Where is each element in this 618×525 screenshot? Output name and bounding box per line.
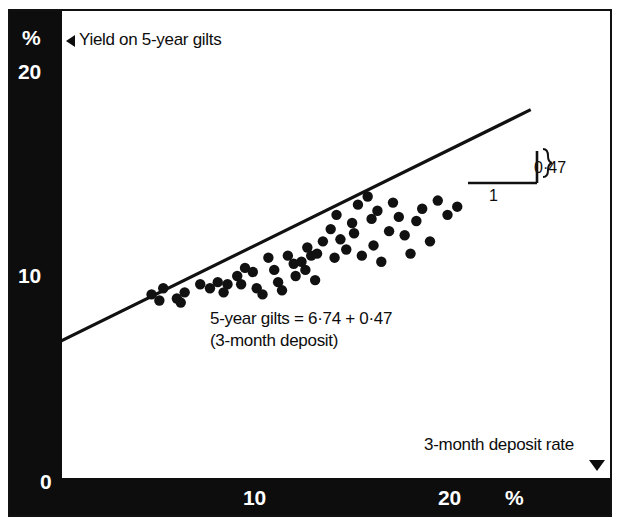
scatter-point	[357, 250, 367, 260]
equation-line-1: 5-year gilts = 6·74 + 0·47	[210, 308, 392, 330]
scatter-point	[283, 250, 293, 260]
scatter-point	[388, 197, 398, 207]
scatter-point	[325, 224, 335, 234]
scatter-point	[300, 265, 310, 275]
equation-line-2: (3-month deposit)	[210, 330, 338, 352]
scatter-point	[252, 283, 262, 293]
y-axis-caption: Yield on 5-year gilts	[79, 30, 221, 50]
scatter-point	[302, 242, 312, 252]
scatter-point	[290, 271, 300, 281]
scatter-point	[452, 201, 462, 211]
scatter-point	[329, 252, 339, 262]
x-axis-unit-label: %	[505, 486, 523, 510]
y-tick-label-10: 10	[18, 264, 41, 288]
scatter-point	[232, 271, 242, 281]
regression-line	[62, 110, 529, 340]
scatter-point	[257, 289, 267, 299]
scatter-point	[433, 195, 443, 205]
scatter-point	[394, 212, 404, 222]
scatter-point	[366, 214, 376, 224]
origin-label: 0	[40, 470, 51, 494]
y-axis-band	[10, 11, 62, 515]
scatter-point	[442, 210, 452, 220]
scatter-point	[240, 263, 250, 273]
x-tick-label-10: 10	[243, 486, 266, 510]
scatter-point	[405, 248, 415, 258]
scatter-point	[318, 236, 328, 246]
slope-rise-label: 0·47	[534, 159, 566, 177]
x-tick-label-20: 20	[438, 486, 461, 510]
scatter-point	[296, 257, 306, 267]
scatter-point	[179, 287, 189, 297]
scatter-point	[312, 248, 322, 258]
scatter-point	[146, 289, 156, 299]
scatter-point	[273, 277, 283, 287]
y-axis-unit-label: %	[22, 26, 40, 50]
slope-run-label: 1	[489, 187, 498, 205]
scatter-point	[347, 218, 357, 228]
scatter-point	[399, 230, 409, 240]
scatter-point	[269, 265, 279, 275]
scatter-point	[154, 295, 164, 305]
scatter-point	[384, 226, 394, 236]
scatter-point	[288, 259, 298, 269]
scatter-point	[310, 275, 320, 285]
scatter-point	[372, 206, 382, 216]
scatter-points	[146, 191, 462, 307]
scatter-point	[158, 283, 168, 293]
scatter-point	[306, 250, 316, 260]
scatter-point	[349, 228, 359, 238]
plot-area: Yield on 5-year gilts 6·74 5-year gilts …	[62, 11, 610, 478]
scatter-point	[368, 240, 378, 250]
scatter-point	[335, 234, 345, 244]
scatter-point	[222, 279, 232, 289]
scatter-point	[248, 267, 258, 277]
left-triangle-icon	[66, 35, 75, 47]
scatter-point	[425, 236, 435, 246]
scatter-point	[195, 279, 205, 289]
x-axis-caption: 3-month deposit rate	[424, 435, 574, 455]
scatter-point	[176, 297, 186, 307]
scatter-point	[353, 199, 363, 209]
scatter-point	[172, 293, 182, 303]
scatter-point	[362, 191, 372, 201]
down-triangle-icon	[589, 460, 605, 471]
plot-vector-layer	[62, 11, 610, 478]
chart-figure: % 20 10 0 10 20 % Yield on 5-year gilts …	[0, 0, 618, 525]
scatter-point	[277, 285, 287, 295]
scatter-point	[417, 204, 427, 214]
scatter-point	[341, 244, 351, 254]
scatter-point	[263, 252, 273, 262]
scatter-point	[411, 216, 421, 226]
scatter-point	[236, 279, 246, 289]
scatter-point	[331, 210, 341, 220]
scatter-point	[376, 257, 386, 267]
y-tick-label-20: 20	[18, 60, 41, 84]
scatter-point	[218, 287, 228, 297]
slope-triangle	[468, 151, 537, 183]
scatter-point	[205, 283, 215, 293]
scatter-point	[213, 277, 223, 287]
